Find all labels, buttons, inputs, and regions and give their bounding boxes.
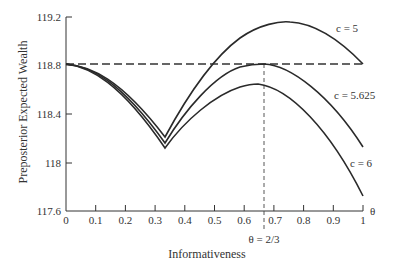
x-tick-label: 0.3 [148,214,162,226]
x-tick-label: 0.6 [237,214,251,226]
y-tick-label: 117.6 [37,205,62,217]
curve-c5625 [66,64,363,147]
x-tick-label: 0.8 [297,214,311,226]
theta-axis-symbol: θ [370,205,375,217]
y-tick-label: 118.8 [37,59,62,71]
chart: 119.2 118.8 118.4 118 117.6 0 0.1 0.2 0.… [0,0,395,270]
x-tick-label: 0 [63,214,69,226]
x-tick-labels: 0 0.1 0.2 0.3 0.4 0.5 0.6 0.7 0.8 0.9 1 [63,214,366,226]
y-ticks [66,17,72,163]
label-c5: c = 5 [336,22,359,34]
curve-c6 [66,64,363,196]
y-tick-label: 119.2 [37,11,61,23]
label-c5625: c = 5.625 [334,89,376,101]
x-axis-title: Informativeness [168,247,246,261]
x-ticks [96,205,363,211]
x-tick-label: 0.7 [268,214,282,226]
x-tick-label: 0.4 [178,214,192,226]
curve-c5 [66,22,363,137]
label-c6: c = 6 [350,157,373,169]
x-tick-label: 0.9 [326,214,340,226]
y-tick-label: 118 [45,157,62,169]
x-tick-label: 0.5 [208,214,222,226]
x-tick-label: 0.2 [119,214,133,226]
y-axis-title: Preposterior Expected Wealth [16,41,30,184]
y-tick-label: 118.4 [37,108,62,120]
y-tick-labels: 119.2 118.8 118.4 118 117.6 [37,11,62,217]
x-tick-label: 1 [360,214,366,226]
x-tick-label: 0.1 [89,214,103,226]
theta-marker-label: θ = 2/3 [248,233,280,245]
